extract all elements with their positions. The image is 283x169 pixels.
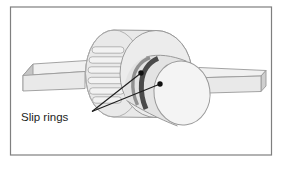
slip-rings-diagram: Slip rings <box>0 0 283 169</box>
pole-block-left <box>23 60 95 91</box>
winding-slat <box>88 67 125 73</box>
diagram-canvas: Slip rings <box>0 0 283 169</box>
winding-slat <box>88 77 125 83</box>
winding-slat <box>92 47 124 53</box>
winding-slat <box>89 57 125 63</box>
slip-rings-label: Slip rings <box>21 111 69 123</box>
slip-ring-marker-dot-back <box>138 70 143 75</box>
slip-ring-marker-dot-front <box>157 81 162 86</box>
